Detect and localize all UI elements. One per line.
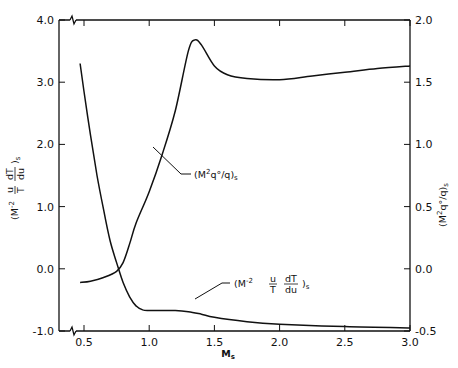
svg-text:du: du — [15, 168, 26, 180]
svg-text:(M-2: (M-2 — [8, 201, 20, 220]
y-left-tick-label: 3.0 — [37, 76, 55, 89]
y-left-tick-label: 4.0 — [37, 14, 55, 27]
y-right-tick-label: 0.0 — [415, 263, 433, 276]
svg-text:u: u — [4, 187, 15, 193]
svg-text:dT: dT — [4, 168, 15, 180]
x-axis-label: Ms — [221, 348, 235, 361]
x-tick-label: 2.0 — [271, 336, 289, 349]
svg-text:T: T — [269, 284, 276, 295]
x-tick-label: 0.5 — [75, 336, 93, 349]
svg-text:(M2q°/q)s: (M2q°/q)s — [194, 168, 238, 182]
y-left-tick-label: 0.0 — [37, 263, 55, 276]
y-left-tick-label: 2.0 — [37, 138, 55, 151]
svg-text:u: u — [270, 273, 276, 284]
y-right-tick-label: 1.0 — [415, 138, 433, 151]
y-right-axis-label: (M2q°/q)s — [436, 183, 450, 227]
svg-text:(M2q°/q)s: (M2q°/q)s — [436, 183, 450, 227]
y-left-axis-label: (M-2 u T dT du )s — [4, 156, 26, 220]
svg-text:T: T — [15, 187, 26, 194]
x-tick-label: 2.5 — [336, 336, 354, 349]
svg-text:)s: )s — [9, 156, 22, 164]
annotation-dT-du: (M-2 u T dT du )s — [195, 273, 310, 299]
series-q-ratio-curve — [80, 40, 410, 283]
y-right-tick-label: -0.5 — [415, 325, 436, 338]
svg-text:du: du — [285, 284, 297, 295]
y-left-tick-label: -1.0 — [33, 325, 54, 338]
y-left-axis-ticks: 4.03.02.01.00.0-1.0 — [33, 14, 65, 338]
y-right-axis-ticks: 2.01.51.00.50.0-0.5 — [404, 14, 436, 338]
y-left-tick-label: 1.0 — [37, 201, 55, 214]
svg-text:(M-2: (M-2 — [234, 277, 253, 289]
y-right-tick-label: 0.5 — [415, 201, 433, 214]
annotation-q-ratio: (M2q°/q)s — [153, 147, 238, 182]
svg-text:)s: )s — [302, 278, 310, 291]
y-right-tick-label: 2.0 — [415, 14, 433, 27]
y-right-tick-label: 1.5 — [415, 76, 433, 89]
x-tick-label: 1.0 — [140, 336, 158, 349]
svg-text:dT: dT — [285, 273, 297, 284]
chart: 0.51.01.52.02.53.0 4.03.02.01.00.0-1.0 2… — [0, 0, 458, 368]
